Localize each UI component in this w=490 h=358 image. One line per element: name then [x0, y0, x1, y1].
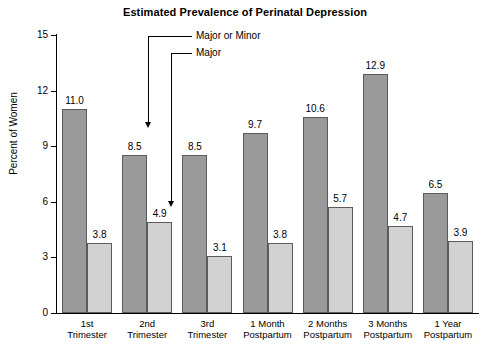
bar-value-label: 10.6	[297, 104, 334, 114]
bar-value-label: 11.0	[56, 96, 93, 106]
annotation-leader-horizontal	[171, 53, 192, 54]
bar-value-label: 9.7	[237, 120, 274, 130]
bar-major-minor	[62, 109, 87, 313]
annotation-leader-vertical	[148, 36, 149, 122]
bar-major	[388, 226, 413, 313]
bar-value-label: 3.8	[81, 230, 118, 240]
bar-value-label: 3.1	[201, 243, 238, 253]
bar-value-label: 5.7	[322, 194, 359, 204]
bar-major-minor	[182, 155, 207, 313]
y-axis-tick	[51, 313, 57, 314]
annotation-arrowhead	[145, 122, 151, 128]
annotation-label-major: Major	[196, 48, 221, 58]
y-axis-tick-label: 3	[0, 252, 48, 262]
bar-value-label: 12.9	[357, 61, 394, 71]
annotation-leader-vertical	[171, 53, 172, 201]
bar-value-label: 8.5	[116, 142, 153, 152]
x-axis-category-line: 1 Year	[410, 318, 486, 329]
bar-major-minor	[423, 193, 448, 313]
bar-major-minor	[243, 133, 268, 313]
bar-major	[207, 256, 232, 313]
x-axis-category-line: Postpartum	[410, 329, 486, 340]
bar-value-label: 6.5	[417, 180, 454, 190]
x-axis-line	[56, 313, 479, 314]
annotation-label-major-or-minor: Major or Minor	[196, 31, 260, 41]
chart-title: Estimated Prevalence of Perinatal Depres…	[0, 6, 490, 18]
bar-major-minor	[303, 117, 328, 313]
annotation-arrowhead	[168, 201, 174, 207]
x-axis-category-label: 1 YearPostpartum	[410, 318, 486, 340]
annotation-leader-horizontal	[148, 36, 192, 37]
bar-major-minor	[363, 74, 388, 313]
bar-major-minor	[122, 155, 147, 313]
y-axis-tick-label: 12	[0, 86, 48, 96]
bar-major	[448, 241, 473, 313]
bar-value-label: 8.5	[176, 142, 213, 152]
bar-major	[268, 243, 293, 313]
chart-container: Estimated Prevalence of Perinatal Depres…	[0, 0, 490, 358]
bar-major	[147, 222, 172, 313]
plot-area: 11.03.88.54.98.53.19.73.810.65.712.94.76…	[57, 35, 478, 313]
y-axis-label: Percent of Women	[8, 59, 19, 209]
bar-value-label: 4.7	[382, 213, 419, 223]
y-axis-tick-label: 9	[0, 141, 48, 151]
y-axis-tick-label: 6	[0, 197, 48, 207]
bar-major	[328, 207, 353, 313]
bar-value-label: 3.9	[442, 228, 479, 238]
bar-major	[87, 243, 112, 313]
bar-value-label: 4.9	[141, 209, 178, 219]
y-axis-tick-label: 0	[0, 308, 48, 318]
y-axis-tick-label: 15	[0, 30, 48, 40]
bar-value-label: 3.8	[262, 230, 299, 240]
